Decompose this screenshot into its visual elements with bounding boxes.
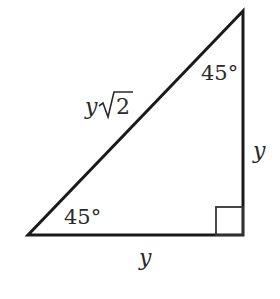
bottom-angle-label: 45° (64, 205, 101, 229)
top-angle-label: 45° (201, 61, 238, 85)
triangle (28, 11, 243, 235)
bottom-side-label: y (138, 245, 152, 270)
triangle-diagram: 45° 45° y y y 2 (0, 0, 280, 299)
hypotenuse-radicand: 2 (116, 94, 130, 119)
right-angle-marker (216, 207, 243, 235)
hypotenuse-variable: y (84, 94, 98, 119)
hypotenuse-label: y 2 (84, 92, 133, 119)
vertical-side-label: y (252, 138, 266, 163)
